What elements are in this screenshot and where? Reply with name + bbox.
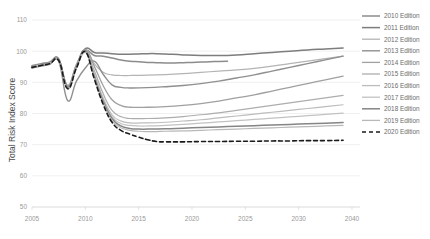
y-axis-tick-labels: 1101009080706050: [16, 16, 27, 210]
legend-label: 2010 Edition: [384, 12, 420, 19]
legend[interactable]: 2010 Edition2011 Edition2012 Edition2013…: [362, 12, 420, 135]
series-lines: [32, 48, 343, 142]
legend-label: 2011 Edition: [384, 24, 420, 31]
y-axis-title: Total Risk Index Score: [7, 77, 17, 162]
legend-item-2020-edition[interactable]: 2020 Edition: [362, 128, 420, 135]
y-axis-tick-label: 60: [20, 172, 28, 179]
legend-item-2011-edition[interactable]: 2011 Edition: [362, 24, 420, 31]
y-axis-tick-label: 100: [16, 48, 27, 55]
legend-item-2013-edition[interactable]: 2013 Edition: [362, 47, 420, 54]
y-axis-tick-label: 50: [20, 203, 28, 210]
legend-item-2012-edition[interactable]: 2012 Edition: [362, 36, 420, 43]
legend-item-2017-edition[interactable]: 2017 Edition: [362, 94, 420, 101]
legend-label: 2012 Edition: [384, 36, 420, 43]
legend-item-2014-edition[interactable]: 2014 Edition: [362, 59, 420, 66]
x-axis-tick-label: 2030: [291, 215, 306, 222]
x-axis-tick-label: 2025: [238, 215, 253, 222]
legend-label: 2013 Edition: [384, 47, 420, 54]
x-axis-tick-label: 2040: [345, 215, 360, 222]
legend-label: 2020 Edition: [384, 128, 420, 135]
legend-label: 2015 Edition: [384, 70, 420, 77]
legend-item-2019-edition[interactable]: 2019 Edition: [362, 117, 420, 124]
legend-item-2015-edition[interactable]: 2015 Edition: [362, 70, 420, 77]
legend-label: 2016 Edition: [384, 82, 420, 89]
x-axis-tick-labels: 2005201020152020202520302040: [25, 207, 360, 222]
legend-label: 2014 Edition: [384, 59, 420, 66]
legend-label: 2018 Edition: [384, 105, 420, 112]
legend-label: 2017 Edition: [384, 94, 420, 101]
x-axis-tick-label: 2005: [25, 215, 40, 222]
y-axis-tick-label: 80: [20, 110, 28, 117]
legend-item-2018-edition[interactable]: 2018 Edition: [362, 105, 420, 112]
legend-item-2010-edition[interactable]: 2010 Edition: [362, 12, 420, 19]
x-axis-tick-label: 2015: [131, 215, 146, 222]
x-axis-tick-label: 2010: [78, 215, 93, 222]
legend-label: 2019 Edition: [384, 117, 420, 124]
series-line-2011-edition: [32, 48, 343, 87]
x-axis-tick-label: 2020: [185, 215, 200, 222]
chart-canvas: 1101009080706050 20052010201520202025203…: [0, 0, 430, 239]
y-axis-tick-label: 90: [20, 79, 28, 86]
legend-item-2016-edition[interactable]: 2016 Edition: [362, 82, 420, 89]
line-chart: 1101009080706050 20052010201520202025203…: [0, 0, 430, 239]
y-axis-tick-label: 110: [17, 16, 28, 23]
y-axis-tick-label: 70: [20, 141, 28, 148]
gridlines: [32, 20, 360, 207]
